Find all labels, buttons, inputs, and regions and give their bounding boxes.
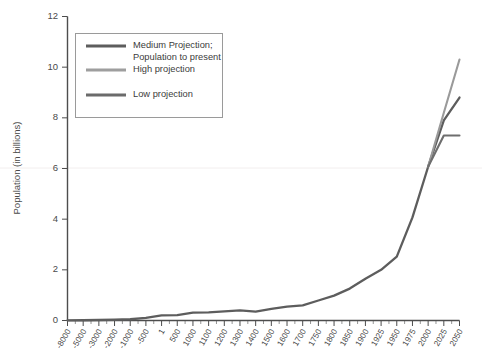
x-tick-label-16: 1750 [307,327,324,348]
x-axis: -8000-5000-3000-2000-1000-50015001000110… [54,321,464,351]
x-tick-label-25: 2050 [448,327,465,348]
x-tick-label-4: -1000 [117,327,135,350]
chart-root: 024681012 -8000-5000-3000-2000-1000-5001… [0,0,482,359]
x-tick-label-23: 2000 [416,327,433,348]
y-tick-label-1: 2 [53,263,58,274]
legend-label-2: Low projection [133,89,193,99]
x-tick-label-13: 1500 [260,327,277,348]
x-tick-label-19: 1900 [354,327,371,348]
y-tick-label-4: 8 [53,111,58,122]
x-tick-label-8: 1000 [181,327,198,348]
y-tick-label-6: 12 [47,10,58,21]
legend-label-1: High projection [133,64,195,74]
legend-label-0: Medium Projection; [133,40,213,50]
y-tick-label-3: 6 [53,162,58,173]
x-tick-label-21: 1950 [385,327,402,348]
x-tick-label-14: 1600 [275,327,292,348]
x-tick-label-11: 1300 [228,327,245,348]
x-tick-label-18: 1850 [338,327,355,348]
x-tick-label-20: 1925 [369,327,386,348]
y-tick-label-5: 10 [47,61,58,72]
series-path-0 [68,98,460,321]
chart-legend: Medium Projection;Population to presentH… [76,34,223,118]
x-tick-label-22: 1975 [401,327,418,348]
legend-label-0-line2: Population to present [133,52,221,62]
population-line-chart: 024681012 -8000-5000-3000-2000-1000-5001… [0,0,482,359]
y-tick-label-2: 4 [53,213,58,224]
y-axis-title: Population (in billions) [11,122,22,215]
series-path-1 [428,60,459,167]
x-tick-label-5: -500 [135,327,151,346]
x-tick-label-6: 1 [157,327,167,336]
x-tick-label-12: 1400 [244,327,261,348]
x-tick-label-10: 1200 [213,327,230,348]
x-tick-label-24: 2025 [432,327,449,348]
x-tick-label-17: 1800 [322,327,339,348]
x-tick-label-7: 500 [168,327,183,344]
x-tick-label-9: 1100 [197,327,214,347]
x-tick-label-15: 1700 [291,327,308,348]
y-tick-label-0: 0 [53,314,58,325]
